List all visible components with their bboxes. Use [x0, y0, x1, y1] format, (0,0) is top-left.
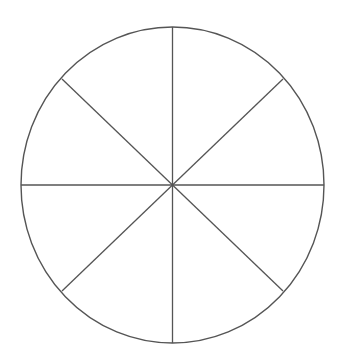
section-dividers [21, 27, 324, 343]
divided-circle-diagram [0, 0, 341, 358]
